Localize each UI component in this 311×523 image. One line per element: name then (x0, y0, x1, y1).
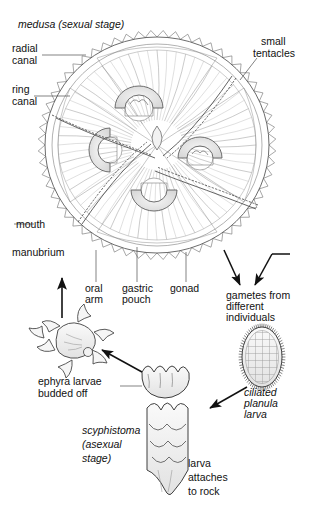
gonad-label: gonad (170, 282, 199, 294)
larva-attaches-label-line1: larva (188, 457, 211, 469)
ring-canal-label-line2: canal (12, 95, 37, 107)
gastric-pouch-label-line2: pouch (122, 293, 151, 305)
scyphistoma-label-line1: scyphistoma (82, 424, 141, 436)
small-tentacles-label-line2: tentacles (253, 47, 295, 59)
scyphistoma-label-line3: stage) (82, 452, 111, 464)
radial-canal-label-line1: radial (12, 42, 38, 54)
ephyra-detail (84, 348, 93, 357)
planula-label-line3: larva (244, 408, 267, 420)
jellyfish-life-cycle-diagram: medusa (sexual stage) radial canal ring … (0, 0, 311, 523)
medusa-label: medusa (sexual stage) (18, 18, 124, 30)
ephyra-label-line2: budded off (38, 387, 88, 399)
oral-arm-label-line2: arm (85, 293, 103, 305)
planula-larva-illustration (239, 324, 286, 391)
ring-canal-label-line1: ring (12, 83, 30, 95)
mouth-label: mouth (16, 218, 45, 230)
small-tentacles-label-line1: small (261, 35, 286, 47)
radial-canal-label-line2: canal (12, 54, 37, 66)
larva-attaches-label-line2: attaches (188, 471, 228, 483)
ephyra-label-line1: ephyra larvae (38, 375, 102, 387)
manubrium-label: manubrium (12, 246, 65, 258)
larva-attaches-label-line3: to rock (188, 485, 220, 497)
gametes-label-line3: individuals (226, 311, 275, 323)
scyphistoma-label-line2: (asexual (82, 438, 122, 450)
diagram-canvas: medusa (sexual stage) radial canal ring … (0, 0, 311, 523)
